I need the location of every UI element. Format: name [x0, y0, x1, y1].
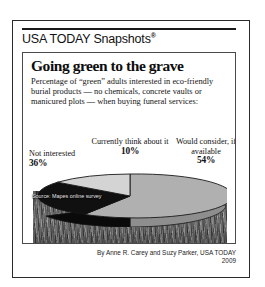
source-note: Source: Mapes online survey [32, 193, 102, 199]
pie-label-not-interested-value: 36% [29, 159, 85, 169]
pie-label-would-consider-value: 54% [175, 156, 236, 166]
page-title: Going green to the grave [31, 57, 231, 75]
byline-year: 2009 [73, 257, 236, 265]
byline: By Anne R. Carey and Suzy Parker, USA TO… [73, 249, 236, 265]
chart-card: Going green to the grave Percentage of “… [22, 52, 236, 244]
pie-label-currently-think-text: Currently think about it [91, 137, 168, 146]
pie-label-would-consider: Would consider, if available 54% [175, 137, 236, 166]
registered-trademark-icon: ® [151, 32, 156, 39]
snapshot-graphic: USA TODAY Snapshots® Going green to the … [0, 0, 265, 287]
pie-label-not-interested: Not interested 36% [29, 149, 85, 168]
byline-credit: By Anne R. Carey and Suzy Parker, USA TO… [97, 249, 236, 256]
pie-label-would-consider-text: Would consider, if available [176, 137, 236, 156]
brand-name: USA TODAY Snapshots [22, 32, 151, 46]
brand-wordmark: USA TODAY Snapshots® [22, 32, 236, 50]
pie-label-currently-think-value: 10% [89, 147, 171, 157]
pie-chart-artwork: Source: Mapes online survey [27, 173, 233, 244]
pie-label-not-interested-text: Not interested [29, 149, 75, 158]
chart-subtitle: Percentage of “green” adults interested … [31, 77, 228, 108]
outer-frame: USA TODAY Snapshots® Going green to the … [12, 20, 250, 278]
pie-label-currently-think: Currently think about it 10% [89, 137, 171, 156]
brand-rule [22, 28, 236, 30]
